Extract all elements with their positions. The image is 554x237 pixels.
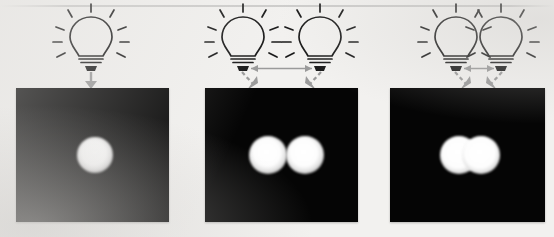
- panel-two-sources-near: [370, 0, 554, 237]
- projection-screen: [390, 88, 545, 222]
- light-overlap-figure: [0, 0, 554, 237]
- light-spot: [440, 136, 478, 174]
- light-spot: [462, 136, 500, 174]
- separation-double-arrow-icon: [464, 65, 494, 72]
